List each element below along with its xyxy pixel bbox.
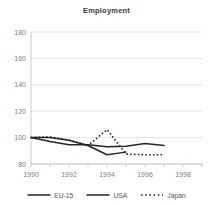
- y-axis-tick-label: 120: [14, 108, 26, 115]
- y-axis-tick-label: 100: [14, 134, 26, 141]
- chart-plot-area: 80100120140160180 19901992199419961998: [0, 0, 213, 205]
- data-series-layer: [31, 130, 164, 155]
- legend-label: USA: [113, 192, 127, 199]
- legend-item-japan[interactable]: Japan: [140, 192, 186, 199]
- y-axis-tick-label: 160: [14, 55, 26, 62]
- x-axis-tick-label: 1990: [23, 171, 39, 178]
- legend-swatch-solid: [27, 192, 51, 198]
- y-axis-tick-label: 80: [18, 161, 26, 168]
- x-axis-tick-label: 1998: [175, 171, 191, 178]
- gridlines: [31, 32, 202, 164]
- legend-swatch-solid: [86, 192, 110, 198]
- y-axis-tick-label: 180: [14, 29, 26, 36]
- legend-label: Japan: [167, 192, 186, 199]
- x-axis-tick-label: 1996: [137, 171, 153, 178]
- legend-item-eu-15[interactable]: EU-15: [27, 192, 73, 199]
- legend-item-usa[interactable]: USA: [86, 192, 127, 199]
- legend-swatch-dotted: [140, 192, 164, 198]
- chart-legend: EU-15USAJapan: [0, 188, 213, 202]
- y-axis-tick-labels: 80100120140160180: [14, 29, 26, 168]
- x-axis-tick-marks: [31, 164, 202, 167]
- y-axis-tick-label: 140: [14, 81, 26, 88]
- x-axis-tick-labels: 19901992199419961998: [23, 171, 191, 178]
- employment-chart: Employment 80100120140160180 19901992199…: [0, 0, 213, 205]
- series-line-eu-15: [31, 138, 164, 147]
- x-axis-tick-label: 1992: [61, 171, 77, 178]
- legend-label: EU-15: [54, 192, 73, 199]
- x-axis-tick-label: 1994: [99, 171, 115, 178]
